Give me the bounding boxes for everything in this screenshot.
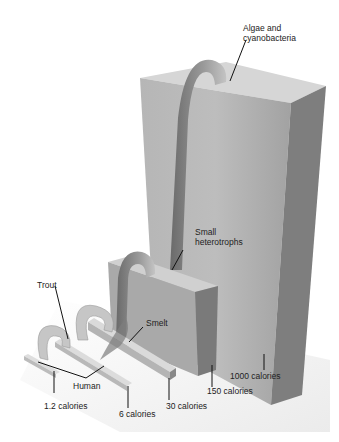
label-human: Human — [73, 381, 100, 391]
label-heterotrophs-line1: Small — [195, 227, 243, 237]
calories-algae: 1000 calories — [230, 371, 281, 381]
label-smelt: Smelt — [146, 318, 168, 328]
label-heterotrophs: Small heterotrophs — [195, 227, 243, 247]
label-algae-line2: cyanobacteria — [243, 33, 296, 43]
label-heterotrophs-line2: heterotrophs — [195, 237, 243, 247]
label-algae: Algae and cyanobacteria — [243, 23, 296, 43]
calories-smelt: 30 calories — [166, 401, 207, 411]
label-algae-line1: Algae and — [243, 23, 296, 33]
label-trout: Trout — [37, 280, 57, 290]
diagram-canvas — [0, 0, 339, 442]
calories-heterotrophs: 150 calories — [207, 386, 253, 396]
calories-human: 1.2 calories — [44, 401, 87, 411]
calories-trout: 6 calories — [119, 409, 155, 419]
energy-pyramid-diagram: Algae and cyanobacteria Small heterotrop… — [0, 0, 339, 442]
